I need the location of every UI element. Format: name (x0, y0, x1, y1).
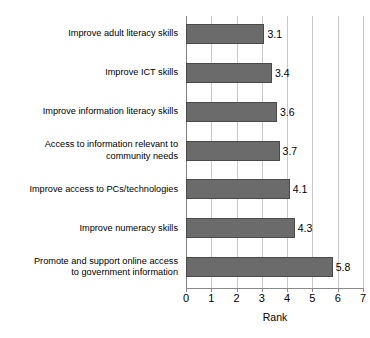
category-label-line: Promote and support online access (0, 256, 178, 268)
gridline-7 (363, 16, 364, 288)
x-tick-label-3: 3 (253, 292, 271, 304)
category-label: Promote and support online accessto gove… (0, 256, 178, 279)
bar (186, 141, 280, 161)
x-tick-label-0: 0 (177, 292, 195, 304)
category-label: Improve ICT skills (0, 67, 178, 79)
x-tick-label-7: 7 (354, 292, 370, 304)
category-label-line: Improve access to PCs/technologies (0, 184, 178, 196)
bar-value-label: 3.7 (280, 141, 298, 161)
bar-value-label: 3.1 (264, 24, 282, 44)
bar (186, 102, 277, 122)
x-tick-label-5: 5 (303, 292, 321, 304)
bar-row: 3.4 (186, 55, 363, 94)
category-label: Improve adult literacy skills (0, 28, 178, 40)
bar-value-label: 4.3 (295, 218, 313, 238)
category-label: Improve access to PCs/technologies (0, 184, 178, 196)
category-label: Improve information literacy skills (0, 106, 178, 118)
bar-value-label: 3.4 (272, 63, 290, 83)
category-label-line: community needs (0, 151, 178, 163)
category-label: Improve numeracy skills (0, 223, 178, 235)
x-tick-label-1: 1 (202, 292, 220, 304)
bar-value-label: 5.8 (333, 257, 351, 277)
category-label-line: Improve ICT skills (0, 67, 178, 79)
x-tick-label-2: 2 (228, 292, 246, 304)
category-label: Access to information relevant tocommuni… (0, 139, 178, 162)
x-axis-title: Rank (186, 311, 364, 323)
category-label-line: to government information (0, 267, 178, 279)
plot-area: 3.13.43.63.74.14.35.8 (186, 16, 363, 288)
bar-row: 5.8 (186, 249, 363, 288)
bar (186, 179, 290, 199)
bar-row: 3.6 (186, 94, 363, 133)
bar (186, 257, 333, 277)
bar-row: 4.3 (186, 210, 363, 249)
x-tick-label-4: 4 (278, 292, 296, 304)
category-label-line: Access to information relevant to (0, 139, 178, 151)
x-tick-label-6: 6 (329, 292, 347, 304)
bar-row: 4.1 (186, 171, 363, 210)
bar-row: 3.7 (186, 133, 363, 172)
bar (186, 63, 272, 83)
bar-chart: Improve adult literacy skillsImprove ICT… (0, 0, 370, 338)
category-label-line: Improve numeracy skills (0, 223, 178, 235)
bar (186, 24, 264, 44)
category-axis-labels: Improve adult literacy skillsImprove ICT… (0, 16, 182, 288)
bar-row: 3.1 (186, 16, 363, 55)
bar (186, 218, 295, 238)
category-label-line: Improve information literacy skills (0, 106, 178, 118)
category-label-line: Improve adult literacy skills (0, 28, 178, 40)
bar-value-label: 4.1 (290, 179, 308, 199)
bar-value-label: 3.6 (277, 102, 295, 122)
